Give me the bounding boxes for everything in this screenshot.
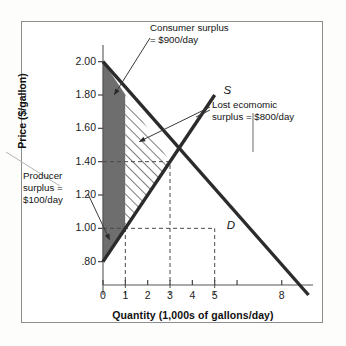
y-tick-label: 2.00 (58, 55, 96, 67)
y-tick-label: 1.00 (58, 221, 96, 233)
economics-figure: 2.001.801.601.401.201.00.80 0123458 Pric… (0, 0, 346, 346)
consumer-surplus-annotation: Consumer surplus = $900/day (150, 22, 229, 46)
y-tick-label: 1.60 (58, 121, 96, 133)
leader-line (139, 107, 210, 142)
supply-curve-label: S (223, 84, 231, 96)
x-tick-label: 5 (203, 289, 227, 301)
y-tick-label: 1.40 (58, 155, 96, 167)
producer-surplus-line1: Producer (23, 170, 87, 182)
x-tick-label: 3 (158, 289, 182, 301)
producer-surplus-annotation: Producer surplus = $100/day (23, 170, 87, 205)
lost-surplus-line1: Lost ecomomic (212, 99, 294, 111)
leader-line (114, 38, 150, 95)
consumer-surplus-line2: = $900/day (150, 34, 229, 46)
x-tick-label: 0 (91, 289, 115, 301)
y-tick-label: .80 (58, 255, 96, 267)
lost-surplus-annotation: Lost ecomomic surplus = $800/day (212, 99, 294, 123)
x-tick-label: 4 (180, 289, 204, 301)
y-axis-title: Price ($/gallon) (16, 63, 28, 159)
demand-curve-label: D (227, 219, 235, 231)
lost-surplus-line2: surplus = $800/day (212, 111, 294, 123)
x-axis-title: Quantity (1,000s of gallons/day) (83, 309, 303, 321)
x-tick-label: 8 (270, 289, 294, 301)
consumer-surplus-line1: Consumer surplus (150, 22, 229, 34)
x-tick-label: 2 (136, 289, 160, 301)
producer-surplus-line2: surplus = (23, 182, 87, 194)
producer-surplus-line3: $100/day (23, 194, 87, 206)
x-tick-label: 1 (113, 289, 137, 301)
y-tick-label: 1.80 (58, 88, 96, 100)
